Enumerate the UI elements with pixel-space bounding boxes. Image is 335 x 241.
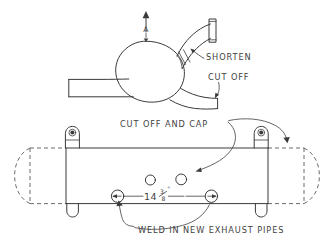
cut-off-annotation: CUT OFF <box>208 72 249 98</box>
dimension-inch-mark: " <box>167 185 170 192</box>
round-housing-body <box>116 41 185 102</box>
lower-left-port <box>111 190 123 202</box>
dimension-whole-number: 14 <box>144 191 157 202</box>
weld-in-new-exhaust-pipes-annotation: WELD IN NEW EXHAUST PIPES <box>116 201 284 235</box>
section-letter-a: A <box>143 25 149 34</box>
dimension-denominator: 8 <box>162 195 166 202</box>
exhaust-modification-drawing: A <box>0 0 335 241</box>
upper-right-port <box>176 174 187 185</box>
original-muffler-outline-dashed <box>15 148 320 204</box>
left-pipe-stub <box>69 79 134 97</box>
upper-left-port <box>145 175 155 185</box>
top-right-tab <box>254 126 268 148</box>
port-spacing-dimension: 14 3 8 " <box>124 185 205 202</box>
lower-right-port <box>205 190 217 202</box>
technical-sketch-canvas: A <box>0 0 335 241</box>
bottom-left-tab <box>67 204 79 217</box>
weld-in-new-exhaust-pipes-label: WELD IN NEW EXHAUST PIPES <box>138 225 284 235</box>
turbo-housing-assembly: A <box>69 11 252 109</box>
cut-off-and-cap-label: CUT OFF AND CAP <box>120 119 208 129</box>
bottom-right-tab <box>255 204 267 217</box>
muffler-body-plan-view: 14 3 8 " CUT OFF AND CAP WELD IN NEW EXH… <box>15 119 320 235</box>
shorten-annotation: SHORTEN <box>190 48 251 62</box>
top-left-tab <box>65 126 79 148</box>
shorten-label: SHORTEN <box>206 52 252 62</box>
retained-muffler-body <box>66 148 268 204</box>
section-arrow-a: A <box>143 11 150 42</box>
cut-off-label: CUT OFF <box>208 72 249 82</box>
